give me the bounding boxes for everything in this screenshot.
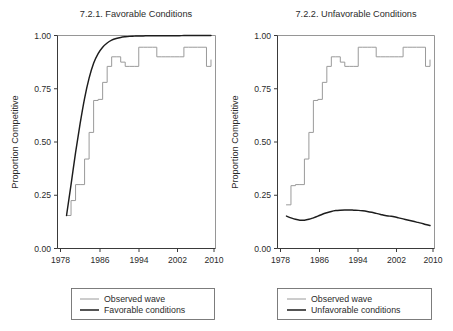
legend-label: Observed wave bbox=[104, 294, 165, 304]
legend-label: Favorable conditions bbox=[104, 305, 186, 315]
y-tick-label: 0.75 bbox=[34, 84, 51, 94]
chart-figure: 7.2.1. Favorable ConditionsProportion Co… bbox=[0, 0, 453, 331]
x-tick-label: 1986 bbox=[310, 255, 329, 265]
y-tick-label: 0.25 bbox=[34, 190, 51, 200]
panel-title: 7.2.1. Favorable Conditions bbox=[80, 9, 193, 19]
x-tick-label: 1986 bbox=[90, 255, 109, 265]
x-tick-label: 2002 bbox=[387, 255, 406, 265]
x-tick-label: 2010 bbox=[204, 255, 223, 265]
y-tick-label: 1.00 bbox=[254, 31, 271, 41]
legend-label: Observed wave bbox=[311, 294, 372, 304]
x-tick-label: 1994 bbox=[348, 255, 367, 265]
y-tick-label: 0.50 bbox=[254, 137, 271, 147]
figure-container: 7.2.1. Favorable ConditionsProportion Co… bbox=[0, 0, 453, 331]
y-tick-label: 0.50 bbox=[34, 137, 51, 147]
x-tick-label: 1994 bbox=[129, 255, 148, 265]
y-axis-label: Proportion Competitive bbox=[230, 95, 240, 188]
legend-label: Unfavorable conditions bbox=[311, 305, 401, 315]
x-tick-label: 2010 bbox=[423, 255, 442, 265]
y-tick-label: 0.00 bbox=[34, 244, 51, 254]
x-tick-label: 1978 bbox=[271, 255, 290, 265]
x-tick-label: 1978 bbox=[51, 255, 70, 265]
panel-title: 7.2.2. Unfavorable Conditions bbox=[295, 9, 416, 19]
y-tick-label: 0.75 bbox=[254, 84, 271, 94]
y-tick-label: 0.00 bbox=[254, 244, 271, 254]
figure-background bbox=[0, 0, 453, 331]
y-tick-label: 1.00 bbox=[34, 31, 51, 41]
y-axis-label: Proportion Competitive bbox=[10, 95, 20, 188]
y-tick-label: 0.25 bbox=[254, 190, 271, 200]
x-tick-label: 2002 bbox=[168, 255, 187, 265]
